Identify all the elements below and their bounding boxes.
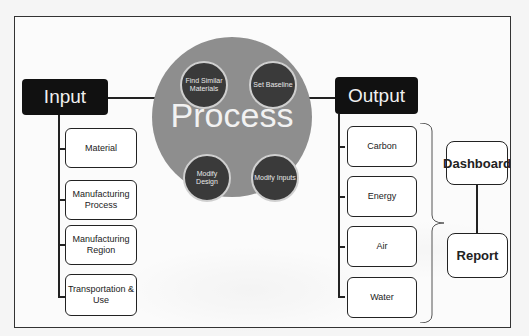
input-item-manufacturing-region: Manufacturing Region	[65, 225, 137, 265]
input-item-manufacturing-process: Manufacturing Process	[65, 180, 137, 220]
input-item-transportation-use: Transportation & Use	[65, 274, 137, 316]
output-header: Output	[335, 77, 418, 114]
output-item-air: Air	[347, 226, 417, 267]
report-box: Report	[447, 233, 508, 278]
input-to-process-line	[108, 97, 158, 99]
output-branch-1	[338, 146, 345, 148]
output-title: Output	[348, 85, 405, 107]
step-find-similar-materials: Find Similar Materials	[180, 61, 228, 109]
step-modify-design: Modify Design	[183, 154, 231, 202]
step-set-baseline: Set Baseline	[249, 61, 297, 109]
output-branch-3	[338, 246, 345, 248]
input-branch-4	[58, 296, 65, 298]
output-item-carbon: Carbon	[347, 126, 417, 167]
output-branch-2	[338, 196, 345, 198]
output-brace-icon	[418, 123, 448, 323]
input-branch-3	[58, 244, 65, 246]
step-modify-inputs: Modify Inputs	[251, 154, 299, 202]
input-tree-trunk	[58, 114, 60, 296]
input-item-material: Material	[65, 128, 137, 168]
output-item-water: Water	[347, 277, 417, 318]
input-header: Input	[22, 79, 108, 115]
output-branch-4	[338, 296, 345, 298]
output-item-energy: Energy	[347, 176, 417, 217]
dashboard-report-connector	[476, 184, 478, 234]
input-title: Input	[44, 86, 86, 108]
dashboard-box: Dashboard	[446, 141, 508, 185]
input-branch-2	[58, 199, 65, 201]
output-tree-trunk	[338, 114, 340, 296]
input-branch-1	[58, 148, 65, 150]
